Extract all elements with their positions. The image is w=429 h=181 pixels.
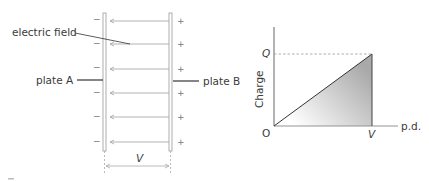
negative-sign: − [93, 39, 101, 48]
negative-sign: − [93, 63, 101, 72]
plate-b-label: plate B [203, 76, 240, 87]
plate-a-label: plate A [36, 75, 73, 86]
corner-mark [8, 178, 14, 180]
origin-label: O [262, 128, 270, 139]
voltage-label: V [136, 153, 143, 164]
field-leader-line [75, 33, 130, 44]
positive-sign: + [177, 89, 185, 98]
q-tick-label: Q [262, 48, 270, 59]
negative-sign: − [93, 88, 101, 97]
positive-sign: + [177, 65, 185, 74]
figure: electric field plate A plate B V − − − −… [0, 0, 429, 181]
positive-sign: + [177, 17, 185, 26]
negative-sign: − [93, 112, 101, 121]
plate-a [103, 13, 106, 151]
y-axis-label: Charge [254, 70, 265, 108]
positive-sign: + [177, 138, 185, 147]
positive-sign: + [177, 40, 185, 49]
x-axis-label: p.d. [401, 121, 421, 132]
plate-b [169, 13, 172, 151]
charge-pd-graph [274, 27, 398, 126]
field-lines [110, 19, 169, 144]
positive-sign: + [177, 113, 185, 122]
negative-sign: − [93, 15, 101, 24]
v-tick-label: V [368, 129, 375, 140]
electric-field-label: electric field [12, 27, 77, 38]
negative-sign: − [93, 137, 101, 146]
